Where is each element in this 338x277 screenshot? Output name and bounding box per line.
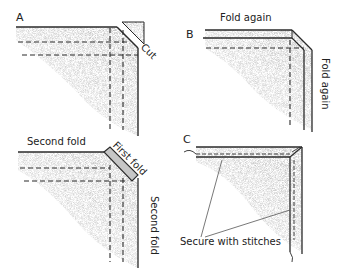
fold-again-top-label: Fold again — [220, 13, 272, 23]
fold-again-side-label: Fold again — [320, 58, 330, 110]
callout-leader — [201, 160, 222, 237]
thread-end — [290, 252, 293, 262]
secure-with-stitches-label: Secure with stitches — [180, 237, 281, 247]
panel-a — [16, 22, 144, 136]
second-fold-top-label: Second fold — [27, 137, 86, 147]
panel-b-letter: B — [186, 29, 194, 40]
fabric-shading — [16, 27, 138, 136]
panel-b — [203, 30, 312, 132]
fabric-shading — [205, 30, 312, 130]
panel-first-second-fold — [18, 147, 138, 268]
fabric-shading — [18, 152, 138, 268]
panel-a-letter: A — [16, 12, 24, 23]
second-fold-side-label: Second fold — [149, 196, 159, 255]
panel-c-letter: C — [183, 134, 191, 145]
thread-end — [184, 150, 196, 154]
